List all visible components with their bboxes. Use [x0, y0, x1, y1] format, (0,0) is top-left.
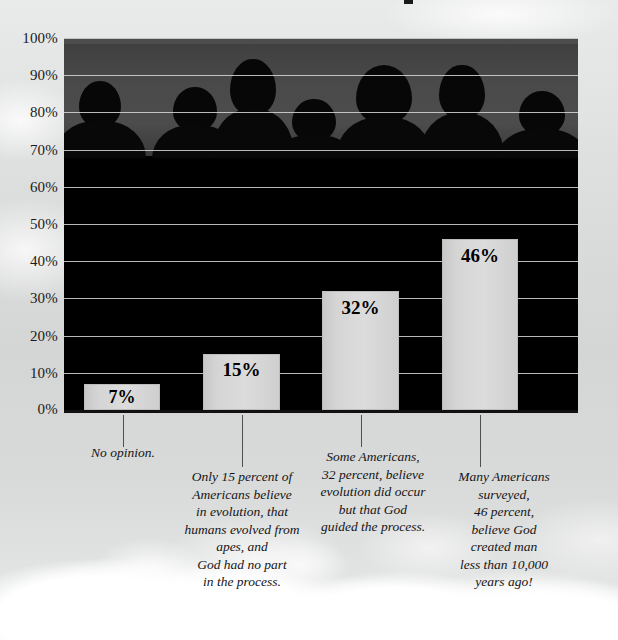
bar-value-label: 7% — [85, 387, 159, 408]
gridline-90 — [64, 75, 578, 76]
caption-no-opinion: No opinion. — [42, 444, 204, 462]
x-tick-3 — [361, 415, 362, 447]
caption-line: years ago! — [434, 573, 574, 591]
caption-line: evolution did occur — [297, 483, 449, 501]
y-tick-60: 60% — [0, 179, 58, 196]
caption-line: 32 percent, believe — [297, 466, 449, 484]
caption-god-guided-evolution: Some Americans, 32 percent, believe evol… — [297, 448, 449, 536]
gridline-60 — [64, 187, 578, 188]
caption-line: No opinion. — [42, 444, 204, 462]
caption-line: God had no part — [163, 556, 321, 574]
bar-evolution-no-god[interactable]: 15% — [203, 354, 280, 410]
caption-line: but that God — [297, 501, 449, 519]
caption-line: created man — [434, 538, 574, 556]
caption-line: less than 10,000 — [434, 556, 574, 574]
x-tick-4 — [480, 415, 481, 467]
gridline-50 — [64, 224, 578, 225]
y-tick-100: 100% — [0, 30, 58, 47]
caption-line: 46 percent, — [434, 503, 574, 521]
bar-value-label: 15% — [204, 359, 279, 381]
caption-line: guided the process. — [297, 518, 449, 536]
bar-young-earth-creation[interactable]: 46% — [442, 239, 518, 410]
chart-plot-area: 7% 15% 32% 46% — [64, 38, 578, 410]
bar-value-label: 32% — [323, 297, 398, 319]
y-tick-40: 40% — [0, 253, 58, 270]
y-tick-90: 90% — [0, 67, 58, 84]
caption-line: Some Americans, — [297, 448, 449, 466]
gridline-80 — [64, 112, 578, 113]
evolution-poll-poster: 7% 15% 32% 46% 100% 90% 80% 70% 60% 50% … — [0, 0, 618, 640]
y-tick-80: 80% — [0, 104, 58, 121]
silhouette-head — [439, 65, 485, 119]
x-tick-1 — [123, 415, 124, 447]
silhouette-head — [230, 59, 276, 115]
caption-line: believe God — [434, 521, 574, 539]
y-tick-20: 20% — [0, 328, 58, 345]
y-tick-10: 10% — [0, 365, 58, 382]
caption-line: apes, and — [163, 538, 321, 556]
silhouette-head — [356, 65, 412, 123]
y-tick-70: 70% — [0, 142, 58, 159]
x-tick-2 — [242, 415, 243, 467]
bar-no-opinion[interactable]: 7% — [84, 384, 160, 410]
caption-line: Many Americans — [434, 468, 574, 486]
crowd-silhouette-group — [64, 38, 578, 173]
crowd-person-6 — [420, 63, 504, 173]
caption-line: surveyed, — [434, 486, 574, 504]
caption-line: in the process. — [163, 573, 321, 591]
y-axis-labels: 100% 90% 80% 70% 60% 50% 40% 30% 20% 10%… — [0, 0, 58, 640]
bar-value-label: 46% — [443, 245, 517, 267]
y-tick-0: 0% — [0, 401, 58, 418]
y-tick-50: 50% — [0, 216, 58, 233]
gridline-100 — [64, 38, 578, 39]
x-axis-line — [64, 410, 578, 413]
caption-young-earth-creation: Many Americans surveyed, 46 percent, bel… — [434, 468, 574, 591]
gridline-70 — [64, 150, 578, 151]
y-tick-30: 30% — [0, 290, 58, 307]
clipped-title-fragment — [404, 0, 413, 4]
bar-god-guided-evolution[interactable]: 32% — [322, 291, 399, 410]
